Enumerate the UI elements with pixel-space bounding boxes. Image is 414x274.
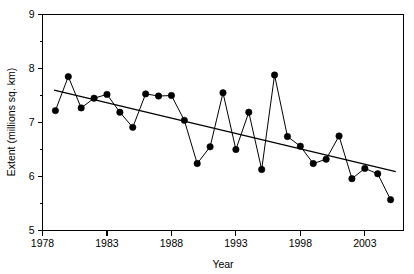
x-tick-label-1978: 1978 — [31, 237, 55, 249]
data-point-2004 — [375, 171, 381, 177]
x-tick-label-1998: 1998 — [289, 237, 313, 249]
y-axis-title: Extent (millions sq. km) — [5, 68, 17, 177]
data-point-1980 — [65, 73, 71, 79]
data-point-2002 — [349, 175, 355, 181]
x-axis-ticks — [43, 231, 365, 236]
x-tick-label-1993: 1993 — [224, 237, 248, 249]
y-axis-ticks — [38, 15, 43, 231]
y-axis-tick-labels: 56789 — [29, 8, 35, 236]
data-point-1983 — [104, 91, 110, 97]
data-point-1996 — [271, 72, 277, 78]
data-point-1995 — [258, 166, 264, 172]
y-tick-label-5: 5 — [29, 224, 35, 236]
data-point-1981 — [78, 105, 84, 111]
data-point-1997 — [284, 133, 290, 139]
data-point-1985 — [130, 124, 136, 130]
x-tick-label-1988: 1988 — [160, 237, 184, 249]
x-axis-tick-labels: 197819831988199319982003 — [31, 237, 377, 249]
data-point-1999 — [310, 160, 316, 166]
y-tick-label-8: 8 — [29, 62, 35, 74]
data-point-1984 — [117, 109, 123, 115]
y-tick-label-6: 6 — [29, 170, 35, 182]
data-point-2000 — [323, 156, 329, 162]
data-point-1994 — [246, 109, 252, 115]
x-tick-label-1983: 1983 — [95, 237, 119, 249]
data-point-1993 — [233, 146, 239, 152]
data-point-1998 — [297, 143, 303, 149]
data-point-1986 — [142, 91, 148, 97]
x-tick-label-2003: 2003 — [353, 237, 377, 249]
data-point-1982 — [91, 95, 97, 101]
data-point-2005 — [387, 197, 393, 203]
y-tick-label-7: 7 — [29, 116, 35, 128]
data-point-1988 — [168, 92, 174, 98]
data-point-2001 — [336, 133, 342, 139]
data-point-2003 — [362, 165, 368, 171]
data-point-1979 — [52, 107, 58, 113]
data-point-1987 — [155, 93, 161, 99]
sea-ice-extent-line-chart: 56789 197819831988199319982003 Extent (m… — [0, 0, 414, 274]
data-point-1990 — [194, 160, 200, 166]
data-point-1989 — [181, 117, 187, 123]
x-axis-title: Year — [212, 258, 234, 270]
plot-axes — [43, 14, 405, 231]
extent-data-markers — [52, 72, 394, 203]
data-point-1992 — [220, 90, 226, 96]
data-point-1991 — [207, 144, 213, 150]
y-tick-label-9: 9 — [29, 8, 35, 20]
chart-container: 56789 197819831988199319982003 Extent (m… — [0, 0, 414, 274]
